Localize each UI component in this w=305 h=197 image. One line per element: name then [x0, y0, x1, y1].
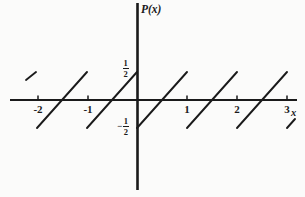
sawtooth-segment-partial-right: [287, 119, 295, 128]
sawtooth-segment-partial-left: [26, 72, 36, 80]
x-tick-label-1: 1: [178, 104, 196, 115]
fraction-denominator: 2: [123, 126, 129, 136]
sawtooth-wave-figure: P(x) x -2 -1 1 2 3 1 2 − 1 2: [0, 0, 305, 197]
fraction-stack: 1 2: [123, 59, 129, 78]
fraction-sign: −: [117, 122, 122, 131]
y-tick-label-half-negative: − 1 2: [117, 117, 129, 136]
y-axis-label: P(x): [141, 4, 161, 16]
plot-canvas: [0, 0, 305, 197]
fraction-numerator: 1: [123, 117, 129, 126]
y-tick-label-half-positive: 1 2: [122, 59, 129, 78]
fraction-denominator: 2: [123, 68, 129, 78]
x-tick-label-neg2: -2: [29, 104, 47, 115]
x-tick-label-2: 2: [228, 104, 246, 115]
fraction-stack: 1 2: [123, 117, 129, 136]
fraction-numerator: 1: [123, 59, 129, 68]
x-tick-label-3: 3: [278, 104, 296, 115]
x-tick-label-neg1: -1: [79, 104, 97, 115]
